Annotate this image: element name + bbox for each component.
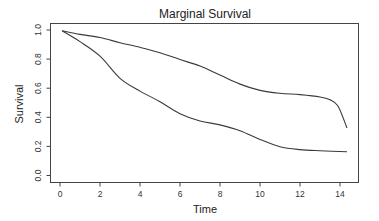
series-lines <box>62 31 347 152</box>
chart-title: Marginal Survival <box>159 7 251 21</box>
y-tick-label: 0.8 <box>33 53 43 65</box>
x-tick-label: 10 <box>255 189 265 199</box>
y-tick-label: 0.2 <box>33 140 43 152</box>
plot-frame <box>51 24 359 183</box>
y-axis-ticks: 0.00.20.40.60.81.0 <box>33 24 51 182</box>
y-axis-label: Survival <box>13 84 25 123</box>
upper-survival-curve <box>62 31 347 128</box>
x-tick-label: 12 <box>295 189 305 199</box>
y-tick-label: 0.4 <box>33 111 43 123</box>
x-axis-ticks: 02468101214 <box>58 183 345 200</box>
x-tick-label: 2 <box>98 189 103 199</box>
y-tick-label: 1.0 <box>33 24 43 36</box>
lower-survival-curve <box>62 31 347 152</box>
x-tick-label: 14 <box>335 189 345 199</box>
y-tick-label: 0.0 <box>33 169 43 181</box>
y-tick-label: 0.6 <box>33 82 43 94</box>
x-axis-label: Time <box>193 203 217 215</box>
x-tick-label: 4 <box>138 189 143 199</box>
survival-chart: Marginal Survival 02468101214 0.00.20.40… <box>0 0 379 221</box>
x-tick-label: 0 <box>58 189 63 199</box>
x-tick-label: 6 <box>178 189 183 199</box>
x-tick-label: 8 <box>218 189 223 199</box>
